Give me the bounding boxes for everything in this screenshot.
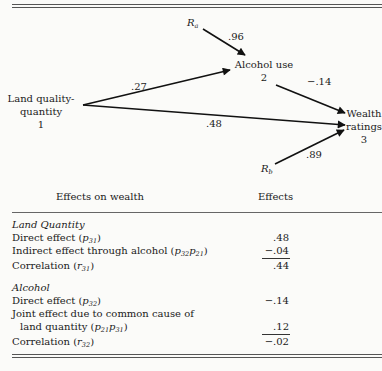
node-wealth: Wealth ratings 3 bbox=[346, 107, 382, 146]
value-correlation-alcohol: −.02 bbox=[249, 336, 289, 348]
sum-rule-land bbox=[262, 258, 290, 259]
value-joint-effect: .12 bbox=[249, 321, 289, 333]
residual-ra: Ra bbox=[187, 17, 198, 32]
node-alcohol: Alcohol use 2 bbox=[235, 59, 293, 84]
value-indirect-effect-land: −.04 bbox=[249, 245, 289, 257]
row-joint-effect-line1: Joint effect due to common cause of bbox=[12, 308, 194, 320]
value-correlation-land: .44 bbox=[249, 260, 289, 272]
section-title-alcohol: Alcohol bbox=[12, 282, 50, 294]
row-correlation-alcohol: Correlation (r32) bbox=[12, 336, 94, 351]
path-coef-ra: .96 bbox=[228, 31, 244, 43]
bottom-rule bbox=[12, 354, 382, 355]
arrow-land-to-alcohol bbox=[83, 70, 230, 105]
section-title-land: Land Quantity bbox=[12, 219, 85, 231]
arrow-alcohol-to-wealth bbox=[276, 85, 345, 113]
bottom-rule-inner bbox=[12, 357, 382, 358]
path-coef-rb: .89 bbox=[306, 149, 322, 161]
residual-rb: Rb bbox=[261, 163, 273, 178]
path-coef-p21: .27 bbox=[131, 81, 147, 93]
sum-rule-alcohol bbox=[262, 334, 290, 335]
row-correlation-land: Correlation (r31) bbox=[12, 260, 94, 275]
header-rule bbox=[12, 212, 382, 213]
row-joint-effect-line2: land quantity (p21p31) bbox=[20, 321, 128, 336]
value-direct-effect-alcohol: −.14 bbox=[249, 295, 289, 307]
table-header-left: Effects on wealth bbox=[56, 191, 144, 203]
table-header-right: Effects bbox=[258, 191, 293, 203]
path-coef-p31: .48 bbox=[206, 118, 222, 130]
value-direct-effect-land: .48 bbox=[249, 232, 289, 244]
row-indirect-effect-land: Indirect effect through alcohol (p32p21) bbox=[12, 245, 208, 260]
node-land: Land quality- quantity 1 bbox=[8, 92, 75, 131]
path-coef-p32: −.14 bbox=[307, 76, 331, 88]
